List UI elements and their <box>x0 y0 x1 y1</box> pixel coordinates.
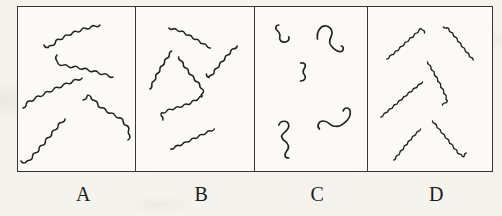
strand <box>150 51 172 89</box>
strands-canvas-a <box>18 7 135 171</box>
strands-canvas-d <box>368 7 492 171</box>
strand <box>318 108 350 129</box>
label-row: A B C D <box>17 172 493 216</box>
strand <box>317 26 343 52</box>
panel-label-b: B <box>142 172 261 216</box>
strand <box>432 121 466 157</box>
panel-box <box>17 6 493 172</box>
strand <box>276 25 289 42</box>
panel-label-d: D <box>374 172 499 216</box>
strands-canvas-b <box>136 7 254 171</box>
strand <box>387 29 425 60</box>
strands-canvas-c <box>255 7 367 171</box>
strand <box>179 57 204 97</box>
panel-a <box>18 7 135 171</box>
figure-four-panel-strands: A B C D <box>0 0 502 216</box>
strand <box>381 82 423 117</box>
strand <box>56 55 113 77</box>
strand <box>443 27 473 60</box>
panel-b <box>135 7 254 171</box>
strand <box>427 62 447 105</box>
strand <box>161 96 202 120</box>
strand <box>83 95 130 140</box>
strand <box>394 129 421 160</box>
strand <box>279 121 289 158</box>
strand <box>169 28 211 48</box>
strand <box>206 46 237 78</box>
strand <box>171 129 215 149</box>
strand <box>301 63 306 81</box>
strand <box>21 119 65 163</box>
strand <box>23 78 82 108</box>
panel-label-c: C <box>261 172 374 216</box>
panel-label-a: A <box>25 172 142 216</box>
panel-d <box>367 7 492 171</box>
strand <box>44 25 100 48</box>
panel-c <box>254 7 367 171</box>
